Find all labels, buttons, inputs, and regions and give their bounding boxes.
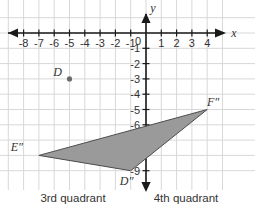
- x-tick-label: -5: [65, 37, 75, 49]
- x-axis-label: x: [230, 26, 237, 40]
- x-tick-label: -6: [49, 37, 59, 49]
- caption-3rd-quadrant: 3rd quadrant: [40, 192, 106, 204]
- x-tick-label: 4: [204, 37, 210, 49]
- x-tick-label: -8: [19, 37, 29, 49]
- x-tick-label: -3: [95, 37, 105, 49]
- x-tick-label: -4: [80, 37, 90, 49]
- caption-4th-quadrant: 4th quadrant: [154, 192, 219, 204]
- y-axis-label: y: [149, 1, 156, 15]
- x-tick-label: 1: [158, 37, 164, 49]
- y-tick-label: -4: [130, 88, 140, 100]
- vertex-label: E″: [10, 140, 24, 154]
- coordinate-plane-figure: -8-7-6-5-4-3-2-11234-1-2-3-4-5-6-7-8-90 …: [0, 0, 255, 207]
- x-tick-label: -2: [111, 37, 121, 49]
- y-tick-label: -2: [130, 58, 140, 70]
- origin-label: 0: [135, 35, 141, 47]
- x-tick-label: 3: [189, 37, 195, 49]
- vertex-label: F″: [206, 95, 220, 109]
- point-label-D: D: [52, 65, 62, 79]
- x-tick-label: 2: [174, 37, 180, 49]
- y-tick-label: -5: [130, 104, 140, 116]
- vertex-label: D″: [119, 174, 135, 188]
- x-tick-label: -7: [34, 37, 44, 49]
- y-tick-label: -3: [130, 73, 140, 85]
- point-marker-D: [67, 76, 72, 81]
